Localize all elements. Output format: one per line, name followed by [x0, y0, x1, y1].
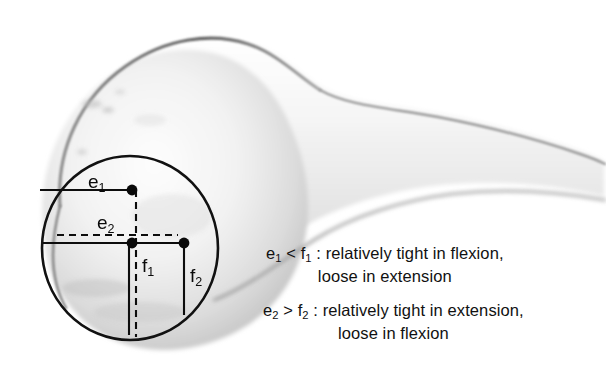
caption-1-e: e [266, 244, 275, 262]
caption-2-line-1: e2 > f2 : relatively tight in extension, [263, 300, 524, 323]
caption-e1-lt-f1: e1 < f1 : relatively tight in flexion, l… [266, 243, 504, 287]
label-e2: e2 [97, 212, 115, 236]
label-f2: f2 [190, 265, 202, 289]
label-e1-base: e [88, 171, 99, 192]
figure-canvas: e1 e2 f1 f2 e1 < f1 : relatively tight i… [0, 0, 606, 380]
point-center [127, 238, 138, 249]
caption-1-line-2: loose in extension [266, 266, 504, 287]
caption-1-tail: : relatively tight in flexion, [312, 244, 504, 262]
label-f1: f1 [142, 255, 154, 279]
caption-e2-gt-f2: e2 > f2 : relatively tight in extension,… [263, 300, 524, 344]
label-e1-sub: 1 [99, 181, 106, 195]
point-e1-endpoint [127, 185, 138, 196]
label-e1: e1 [88, 171, 106, 195]
caption-2-tail: : relatively tight in extension, [309, 301, 524, 319]
caption-1-operator: < f [282, 244, 306, 262]
point-f2-endpoint [179, 238, 190, 249]
label-f2-sub: 2 [195, 275, 202, 289]
label-e2-sub: 2 [108, 222, 115, 236]
caption-2-line-2: loose in flexion [263, 323, 524, 344]
label-e2-base: e [97, 212, 108, 233]
caption-1-line-1: e1 < f1 : relatively tight in flexion, [266, 243, 504, 266]
caption-2-e: e [263, 301, 272, 319]
label-f1-sub: 1 [147, 265, 154, 279]
caption-2-operator: > f [279, 301, 303, 319]
